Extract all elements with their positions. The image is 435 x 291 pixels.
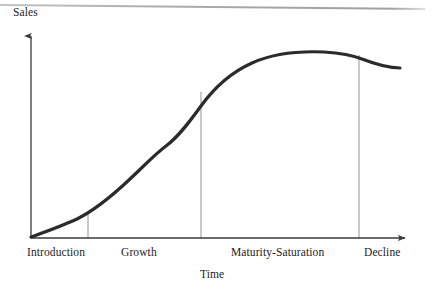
stage-label-maturity: Maturity-Saturation <box>231 246 324 258</box>
x-axis-label: Time <box>200 268 224 280</box>
stage-label-growth: Growth <box>121 246 157 258</box>
y-axis-label: Sales <box>13 6 38 18</box>
stage-label-introduction: Introduction <box>27 246 85 258</box>
product-life-cycle-figure: Sales Time Introduction Growth Maturity-… <box>0 0 435 291</box>
axis-lines <box>31 36 405 238</box>
stage-label-decline: Decline <box>364 246 400 258</box>
sales-curve <box>31 52 400 237</box>
